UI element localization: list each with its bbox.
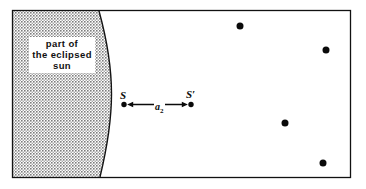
eclipse-diagram-figure: part of the eclipsed sun S S′ a2 (0, 0, 366, 189)
point-S-prime-dot (188, 102, 193, 107)
diagram-canvas (0, 0, 366, 189)
separation-label: a2 (154, 102, 165, 115)
sun-label-line-1: part of (46, 39, 78, 49)
eclipsed-sun-label-box: part of the eclipsed sun (29, 37, 95, 73)
separation-label-subscript: 2 (160, 107, 164, 115)
point-S-label: S (120, 90, 126, 101)
point-S-dot (121, 102, 126, 107)
eclipsed-sun-fill (13, 11, 112, 177)
star-2-dot (323, 47, 330, 54)
star-4-dot (320, 160, 327, 167)
star-1-dot (237, 23, 244, 30)
point-S-prime-label: S′ (186, 89, 195, 100)
star-3-dot (282, 120, 289, 127)
sun-label-line-3: sun (53, 61, 71, 71)
sun-label-line-2: the eclipsed (32, 50, 92, 60)
